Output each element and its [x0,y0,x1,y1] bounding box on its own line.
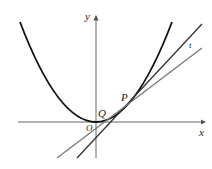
y-axis-label: y [84,10,90,22]
x-axis-label: x [198,126,204,138]
point-q-label: Q [98,107,106,119]
origin-label: O [86,123,93,133]
point-p-label: P [120,91,128,103]
line-t [57,48,202,158]
function-diagram: y x O P Q t [0,0,212,169]
line-t-label: t [189,40,192,50]
